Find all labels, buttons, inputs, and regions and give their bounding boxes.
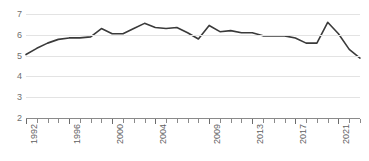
- x-tick-2007: [188, 119, 189, 123]
- x-tick-2019: [317, 119, 318, 123]
- x-tick-label-2017: 2017: [299, 124, 308, 144]
- x-tick-2014: [263, 119, 264, 123]
- x-tick-2002: [134, 119, 135, 123]
- gridline-y-7: [26, 14, 360, 15]
- x-tick-label-2004: 2004: [159, 124, 168, 144]
- y-axis-labels: 234567: [0, 14, 22, 118]
- line-chart: 234567 19921996200020042009201320172021: [0, 0, 369, 161]
- y-tick-label-4: 4: [2, 72, 22, 81]
- x-tick-label-1996: 1996: [73, 124, 82, 144]
- gridline-y-5: [26, 56, 360, 57]
- x-tick-1998: [91, 119, 92, 123]
- x-tick-2015: [274, 119, 275, 123]
- x-tick-label-2000: 2000: [116, 124, 125, 144]
- x-tick-2020: [328, 119, 329, 123]
- y-tick-label-6: 6: [2, 30, 22, 39]
- x-tick-1997: [80, 119, 81, 123]
- x-tick-label-2009: 2009: [213, 124, 222, 144]
- y-tick-label-3: 3: [2, 93, 22, 102]
- series-value: [26, 22, 360, 58]
- x-tick-label-1992: 1992: [30, 124, 39, 144]
- y-tick-label-7: 7: [2, 10, 22, 19]
- x-tick-2010: [220, 119, 221, 123]
- data-series-line: [26, 14, 360, 118]
- x-axis-labels: 19921996200020042009201320172021: [26, 124, 366, 161]
- x-tick-2001: [123, 119, 124, 123]
- gridline-y-4: [26, 76, 360, 77]
- y-tick-label-5: 5: [2, 51, 22, 60]
- x-tick-2005: [166, 119, 167, 123]
- x-tick-2022: [349, 119, 350, 123]
- x-tick-2012: [241, 119, 242, 123]
- x-tick-2006: [177, 119, 178, 123]
- x-tick-2003: [145, 119, 146, 123]
- x-tick-1995: [58, 119, 59, 123]
- x-tick-2018: [306, 119, 307, 123]
- y-tick-label-2: 2: [2, 114, 22, 123]
- x-tick-1993: [37, 119, 38, 123]
- x-tick-label-2013: 2013: [256, 124, 265, 144]
- x-tick-2011: [231, 119, 232, 123]
- gridline-y-6: [26, 35, 360, 36]
- x-tick-2023: [360, 119, 361, 123]
- gridline-y-3: [26, 97, 360, 98]
- x-tick-2016: [285, 119, 286, 123]
- plot-area: [26, 14, 360, 118]
- x-tick-label-2021: 2021: [342, 124, 351, 144]
- x-tick-2008: [198, 119, 199, 123]
- x-tick-1999: [101, 119, 102, 123]
- x-tick-1994: [48, 119, 49, 123]
